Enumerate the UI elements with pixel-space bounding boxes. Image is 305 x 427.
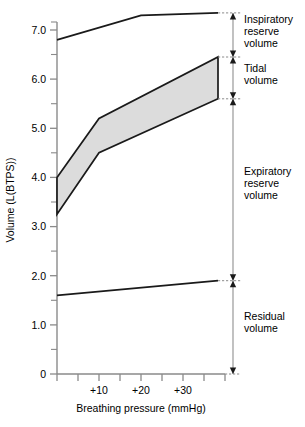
bracket-residual-volume [230, 281, 236, 374]
annotation-erv-line3: volume [244, 189, 278, 201]
x-axis-ticks [57, 374, 225, 381]
y-axis-minor-ticks [51, 22, 57, 349]
y-tick-label-2: 2.0 [31, 270, 46, 282]
annotation-tv-line2: volume [244, 74, 278, 86]
y-tick-label-3: 3.0 [31, 220, 46, 232]
annotation-residual-volume: Residual volume [244, 310, 285, 334]
annotation-irv-line3: volume [244, 37, 278, 49]
spirometry-chart-figure: 0 1.0 2.0 3.0 4.0 5.0 6.0 7.0 Volume (L(… [0, 0, 305, 427]
y-tick-label-7: 7.0 [31, 24, 46, 36]
x-tick-label-plus20: +20 [132, 384, 150, 396]
y-tick-label-6: 6.0 [31, 73, 46, 85]
series-residual-volume-line [57, 281, 218, 296]
x-axis-title: Breathing pressure (mmHg) [76, 402, 206, 414]
y-tick-label-0: 0 [40, 368, 46, 380]
series-tidal-volume-band [57, 57, 218, 214]
bracket-tidal-volume [230, 57, 236, 99]
annotation-rv-line2: volume [244, 322, 278, 334]
x-tick-label-plus10: +10 [90, 384, 108, 396]
y-axis-title: Volume (L(BTPS)) [4, 157, 16, 242]
series-total-lung-capacity-line [57, 13, 218, 40]
chart-svg: 0 1.0 2.0 3.0 4.0 5.0 6.0 7.0 Volume (L(… [0, 0, 305, 427]
bracket-inspiratory-reserve-volume [230, 13, 236, 57]
x-tick-label-plus30: +30 [174, 384, 192, 396]
y-tick-label-1: 1.0 [31, 319, 46, 331]
annotation-tv-line1: Tidal [244, 62, 266, 74]
bracket-expiratory-reserve-volume [230, 99, 236, 281]
annotation-expiratory-reserve-volume: Expiratory reserve volume [244, 165, 292, 201]
annotation-inspiratory-reserve-volume: Inspiratory reserve volume [244, 13, 294, 49]
annotation-rv-line1: Residual [244, 310, 285, 322]
annotation-irv-line1: Inspiratory [244, 13, 294, 25]
annotation-tidal-volume: Tidal volume [244, 62, 278, 86]
y-tick-label-5: 5.0 [31, 122, 46, 134]
annotation-erv-line2: reserve [244, 177, 279, 189]
annotation-erv-line1: Expiratory [244, 165, 292, 177]
annotation-irv-line2: reserve [244, 25, 279, 37]
y-tick-label-4: 4.0 [31, 171, 46, 183]
